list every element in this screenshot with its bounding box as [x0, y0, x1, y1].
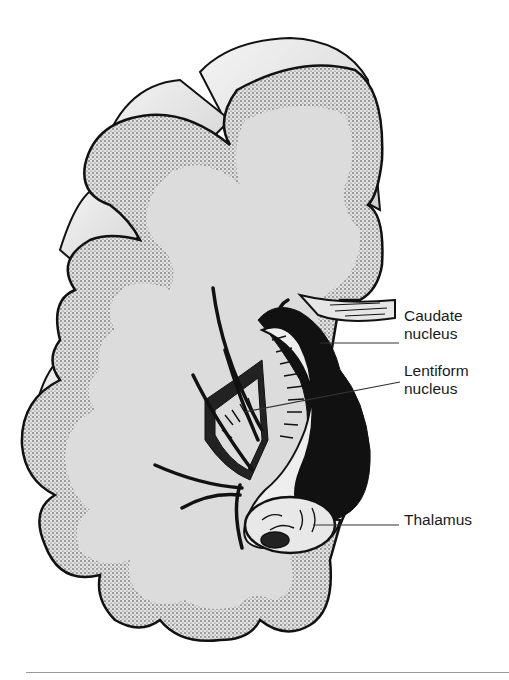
label-caudate-nucleus: Caudate nucleus — [404, 307, 463, 343]
label-lentiform-nucleus: Lentiform nucleus — [404, 362, 469, 398]
bottom-rule-divider — [26, 672, 509, 673]
label-thalamus: Thalamus — [404, 511, 472, 529]
